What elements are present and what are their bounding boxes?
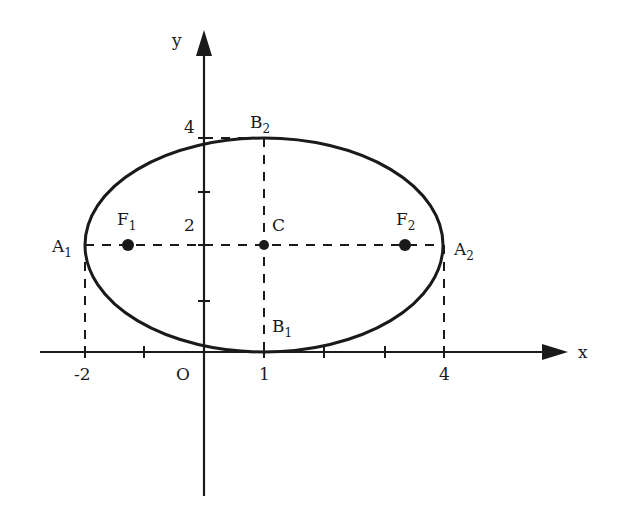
x-axis-label: x	[578, 342, 588, 362]
y-axis-label: y	[171, 30, 182, 50]
b1-label: B1	[272, 316, 292, 340]
x-tick-label-4: 4	[439, 364, 450, 384]
y-tick-label-4: 4	[184, 117, 195, 137]
a2-label: A2	[453, 239, 474, 263]
focus-f2-point	[399, 239, 411, 251]
y-tick-label-2: 2	[184, 215, 195, 235]
f2-label: F2	[396, 209, 415, 233]
c-label: C	[272, 215, 285, 235]
center-c-point	[259, 240, 269, 250]
y-axis-arrow-icon	[196, 30, 212, 56]
a1-label: A1	[51, 236, 72, 260]
x-axis-arrow-icon	[542, 344, 568, 360]
origin-label: O	[176, 364, 190, 384]
x-tick-label-neg2: -2	[74, 364, 91, 384]
x-tick-label-1: 1	[259, 364, 270, 384]
f1-label: F1	[117, 209, 136, 233]
b2-label: B2	[250, 112, 270, 136]
focus-f1-point	[122, 239, 134, 251]
ellipse-diagram: y x O -2 1 4 2 4 A1 A2 B2 B1 F1 F2 C	[0, 0, 620, 532]
